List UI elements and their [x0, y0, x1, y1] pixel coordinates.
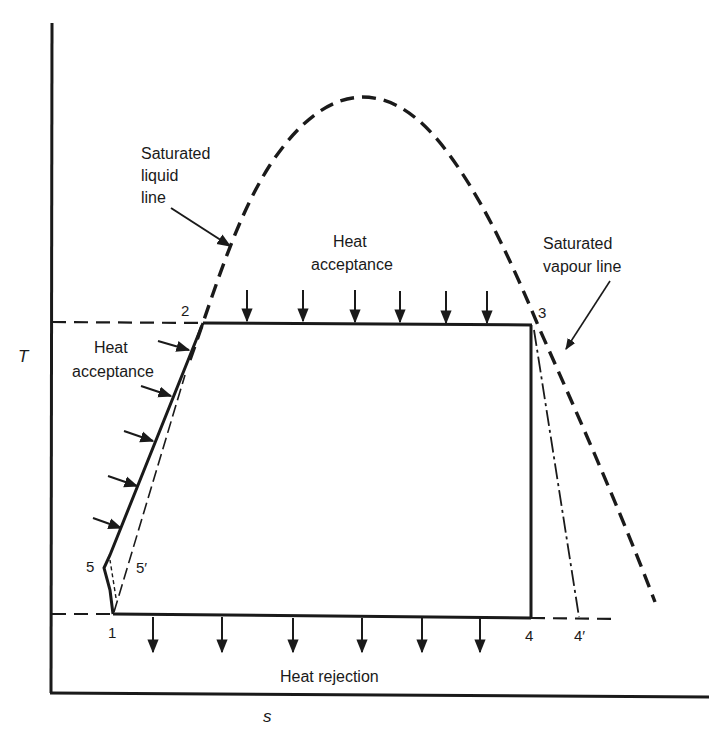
ideal-line-1-5prime [114, 375, 185, 612]
lower-isobar-dashed-right [531, 618, 618, 619]
heat-rejection-arrows [153, 617, 480, 652]
ts-diagram: T s [0, 0, 727, 739]
process-4-1 [113, 614, 531, 618]
state-point-5: 5 [86, 558, 94, 575]
heat-rejection-label: Heat rejection [280, 668, 379, 685]
real-expansion-3-4prime [534, 330, 579, 617]
state-point-3: 3 [538, 304, 546, 321]
t-axis [51, 23, 52, 693]
saturation-dome [190, 97, 655, 602]
heat-acceptance-left-label: Heat acceptance [72, 339, 154, 380]
arrow-diagonal-icon [93, 518, 121, 528]
state-point-2: 2 [181, 302, 189, 319]
s-axis-label: s [263, 707, 272, 726]
heat-acceptance-top-label: Heat acceptance [311, 233, 393, 273]
state-point-1: 1 [108, 624, 116, 641]
arrow-diagonal-icon [158, 341, 189, 350]
state-point-4: 4 [525, 627, 533, 644]
s-axis [50, 693, 709, 697]
saturated-vapour-line-label: Saturated vapour line [543, 235, 621, 275]
axes [50, 23, 709, 697]
arrow-diagonal-icon [108, 476, 137, 486]
state-point-4-prime: 4′ [574, 627, 585, 644]
saturated-liquid-line-label: Saturated liquid line [141, 145, 215, 206]
heat-acceptance-arrows-top [247, 290, 487, 323]
arrow-diagonal-icon [141, 386, 171, 396]
process-2-3 [203, 323, 532, 325]
cycle-path [104, 323, 532, 618]
liquid-line-pointer-arrow [171, 208, 230, 246]
state-point-5-prime: 5′ [136, 559, 147, 576]
upper-isobar-dashed [52, 322, 203, 323]
vapour-line-pointer-arrow [566, 281, 610, 349]
t-axis-label: T [18, 347, 30, 366]
arrow-diagonal-icon [124, 431, 153, 441]
